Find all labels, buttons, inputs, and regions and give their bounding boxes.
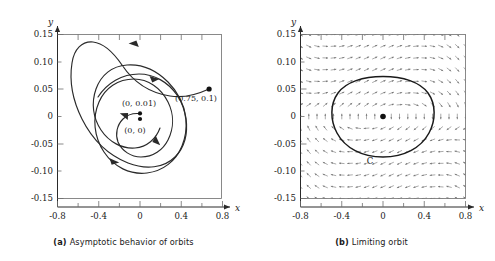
x-tick-label: 0.4 [417, 211, 431, 221]
panel-a-x-major-ticks [58, 201, 223, 207]
initial-point-marker [207, 86, 212, 91]
x-tick-label: -0.4 [333, 211, 350, 221]
x-tick-label: 0.8 [216, 211, 230, 221]
equilibrium-point-marker [380, 114, 386, 120]
inner-orbit-arrow-right [152, 136, 160, 146]
y-tick-label: 0.15 [34, 29, 53, 39]
y-axis-name: y [47, 17, 54, 27]
panel-a-y-ticks [58, 35, 64, 199]
panel-b-axes [298, 26, 474, 210]
panel-b-caption-text: Limiting orbit [349, 237, 408, 247]
panel-b-plot: 0.15 0.10 0.05 0 -0.05 -0.10 -0.15 -0.8 … [248, 0, 495, 261]
x-axis-name: x [235, 203, 240, 213]
y-tick-label: -0.10 [31, 166, 53, 176]
inner-orbit [95, 74, 186, 173]
y-tick-label: 0 [291, 111, 296, 121]
panel-a-caption-tag: (a) [53, 237, 66, 247]
y-tick-label: 0.05 [277, 84, 296, 94]
x-tick-label: -0.4 [90, 211, 107, 221]
panel-a-plot: 0.15 0.10 0.05 0 -0.05 -0.10 -0.15 -0.8 … [0, 0, 247, 261]
y-tick-label: 0.10 [277, 57, 296, 67]
panel-a-y-tick-labels: 0.15 0.10 0.05 0 -0.05 -0.10 -0.15 [31, 29, 53, 203]
panel-a-caption: (a)Asymptotic behavior of orbits [0, 237, 247, 247]
x-tick-label: 0 [380, 211, 385, 221]
x-tick-label: 0.4 [174, 211, 188, 221]
inner-start-marker [138, 111, 142, 115]
panel-b-x-tick-labels: -0.8 -0.4 0 0.4 0.8 [292, 211, 472, 221]
panel-a-caption-text: Asymptotic behavior of orbits [67, 237, 194, 247]
y-tick-label: 0.15 [277, 29, 296, 39]
origin-label: (0, 0) [124, 126, 146, 135]
panel-b-caption-tag: (b) [335, 237, 349, 247]
figure-container: 0.15 0.10 0.05 0 -0.05 -0.10 -0.15 -0.8 … [0, 0, 495, 261]
x-tick-label: -0.8 [292, 211, 309, 221]
panel-a-frame [58, 35, 222, 199]
y-tick-label: 0.05 [34, 84, 53, 94]
panel-b-y-tick-labels: 0.15 0.10 0.05 0 -0.05 -0.10 -0.15 [274, 29, 296, 203]
panel-b-x-major-ticks [301, 201, 466, 207]
panel-b: 0.15 0.10 0.05 0 -0.05 -0.10 -0.15 -0.8 … [248, 0, 495, 261]
initial-point-label: (0.75, 0.1) [175, 94, 217, 103]
y-tick-label: -0.10 [274, 166, 296, 176]
x-tick-label: 0 [137, 211, 142, 221]
x-tick-label: 0.8 [459, 211, 473, 221]
y-tick-label: -0.15 [274, 193, 296, 203]
panel-a: 0.15 0.10 0.05 0 -0.05 -0.10 -0.15 -0.8 … [0, 0, 247, 261]
y-axis-name: y [290, 17, 297, 27]
y-tick-label: -0.05 [31, 139, 53, 149]
origin-marker [138, 117, 142, 121]
inner-orbit-arrow [120, 113, 128, 120]
y-tick-label: -0.15 [31, 193, 53, 203]
panel-a-x-tick-labels: -0.8 -0.4 0 0.4 0.8 [49, 211, 229, 221]
panel-a-top-ticks [78, 35, 202, 41]
y-tick-label: 0 [48, 111, 53, 121]
orbit-arrow-top [129, 41, 139, 47]
y-tick-label: 0.10 [34, 57, 53, 67]
x-axis-name: x [479, 203, 484, 213]
limit-cycle-label: C [367, 156, 374, 166]
panel-b-top-ticks [321, 35, 445, 41]
x-tick-label: -0.8 [49, 211, 66, 221]
y-tick-label: -0.05 [274, 139, 296, 149]
inner-start-label: (0, 0.01) [122, 99, 156, 108]
panel-b-caption: (b)Limiting orbit [248, 237, 495, 247]
